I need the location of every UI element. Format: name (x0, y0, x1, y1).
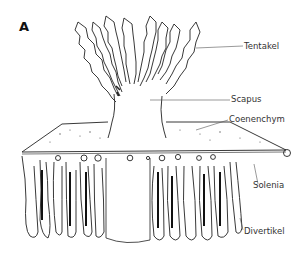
polyp-illustration (0, 0, 294, 256)
scapus-stalk (108, 94, 166, 138)
label-tentakel: Tentakel (244, 41, 279, 51)
label-scapus: Scapus (231, 94, 262, 104)
tentacles (75, 16, 200, 102)
label-coenenchym: Coenenchym (229, 114, 285, 124)
divertikel-lobes (22, 156, 242, 243)
label-divertikel: Divertikel (244, 226, 285, 236)
coenenchym-block (22, 122, 291, 161)
label-solenia: Solenia (253, 180, 284, 190)
